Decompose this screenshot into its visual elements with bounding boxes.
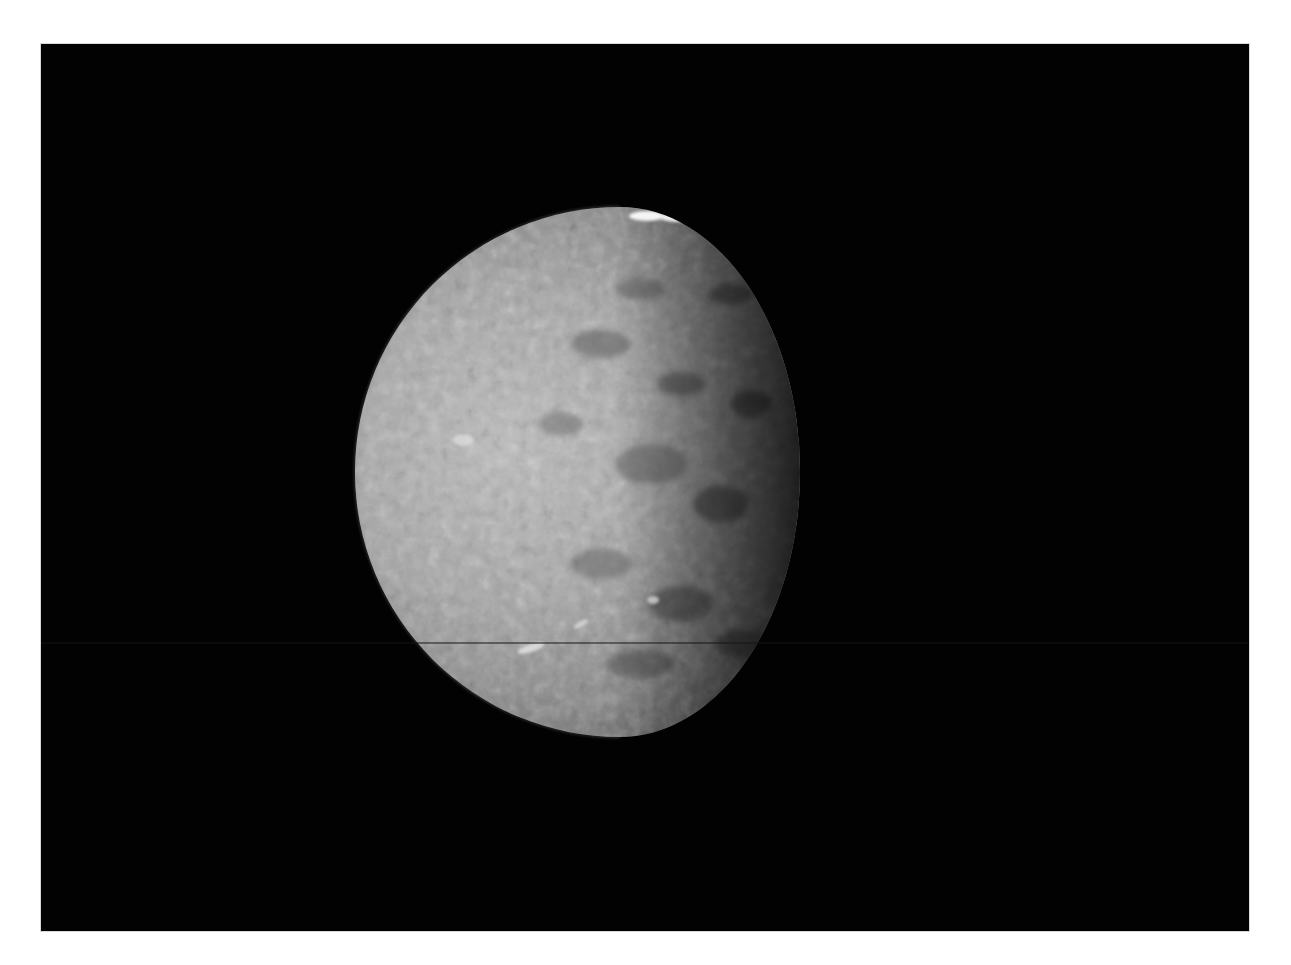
moon-photograph xyxy=(41,44,1249,931)
photo-frame: Grayscale spacecraft image of a heavily … xyxy=(41,44,1249,931)
